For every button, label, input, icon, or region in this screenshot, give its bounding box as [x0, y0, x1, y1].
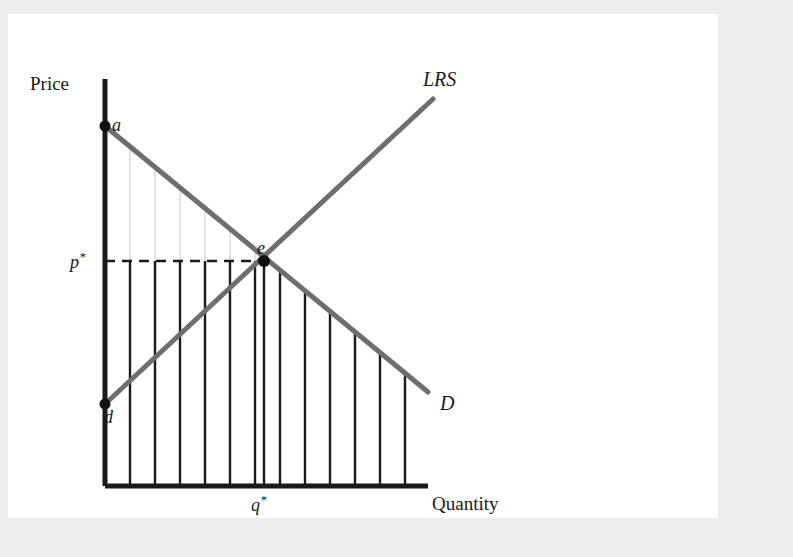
producer-surplus-hatching: [130, 261, 405, 486]
point-a-label: a: [112, 115, 121, 135]
diagram-canvas: a d e D LRS Price Quantity p* q*: [8, 14, 718, 518]
supply-demand-diagram: a d e D LRS Price Quantity p* q*: [8, 14, 718, 518]
long-run-supply-label: LRS: [422, 68, 456, 90]
equilibrium-quantity-label: q*: [251, 492, 267, 515]
demand-curve-label: D: [439, 392, 455, 414]
point-d-label: d: [104, 407, 114, 427]
point-e-label: e: [257, 238, 265, 258]
price-axis-label: Price: [30, 73, 69, 94]
point-a-marker: [100, 121, 111, 132]
figure-page: a d e D LRS Price Quantity p* q*: [8, 14, 718, 518]
equilibrium-price-label: p*: [68, 249, 86, 272]
quantity-axis-label: Quantity: [432, 493, 499, 514]
